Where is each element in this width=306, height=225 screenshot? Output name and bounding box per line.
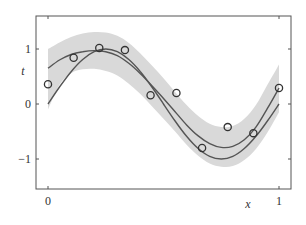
chart: 01−101 x t <box>0 0 306 225</box>
y-axis-label: t <box>21 64 25 78</box>
x-axis-label: x <box>244 197 251 211</box>
x-tick-label: 0 <box>45 194 51 208</box>
y-tick-label: −1 <box>18 152 31 166</box>
y-tick-label: 0 <box>25 97 31 111</box>
y-tick-label: 1 <box>25 42 31 56</box>
x-tick-label: 1 <box>276 194 282 208</box>
